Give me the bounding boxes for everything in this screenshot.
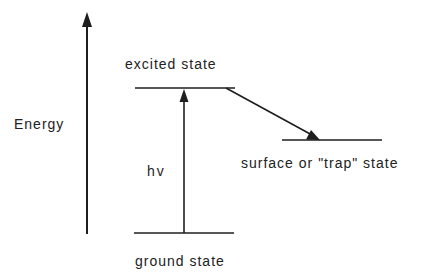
excited-state-label: excited state xyxy=(125,56,217,72)
relaxation-arrow xyxy=(226,88,320,140)
energy-level-diagram: Energy excited state surface or "trap" s… xyxy=(0,0,440,277)
excitation-arrow xyxy=(180,89,189,233)
trap-state-label: surface or "trap" state xyxy=(241,155,398,171)
diagram-graphics xyxy=(0,0,440,277)
ground-state-label: ground state xyxy=(135,253,225,269)
transition-label: hv xyxy=(147,163,166,179)
energy-axis-label: Energy xyxy=(14,116,64,132)
energy-axis-arrow xyxy=(82,12,92,234)
